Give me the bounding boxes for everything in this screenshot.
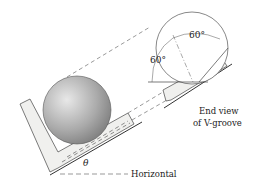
v-groove-diagram: 60° 60° End view of V-groove θ Horizonta… <box>0 0 261 191</box>
end-view-label-line1: End view <box>199 106 239 116</box>
projection-line <box>128 92 163 113</box>
projection-line <box>67 27 150 77</box>
angle-label-left: 60° <box>150 55 166 65</box>
sphere <box>43 76 111 144</box>
end-view-circle <box>156 12 228 84</box>
theta-label: θ <box>83 158 89 168</box>
horizontal-label: Horizontal <box>131 169 177 179</box>
end-view-label-line2: of V-groove <box>193 118 242 128</box>
projection-line <box>132 100 167 120</box>
angle-label-top: 60° <box>189 30 205 40</box>
